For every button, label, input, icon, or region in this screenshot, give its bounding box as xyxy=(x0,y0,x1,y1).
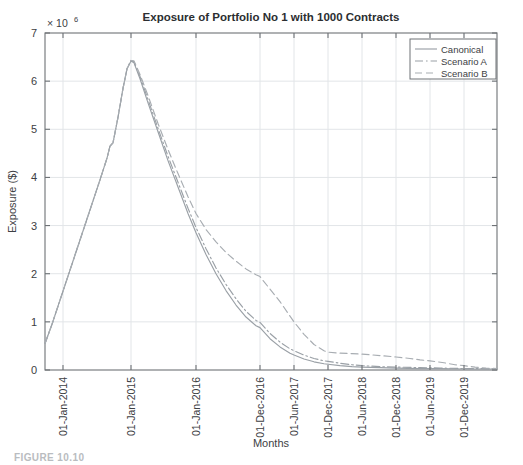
x-tick-label: 01-Dec-2016 xyxy=(254,377,266,438)
x-axis-label: Months xyxy=(253,437,290,449)
y-tick-label: 3 xyxy=(31,220,37,232)
chart-title: Exposure of Portfolio No 1 with 1000 Con… xyxy=(143,11,400,23)
legend-label: Scenario B xyxy=(441,68,487,79)
axes-box xyxy=(45,33,497,370)
figure-caption: FIGURE 10.10 xyxy=(14,452,254,464)
x-tick-label: 01-Dec-2019 xyxy=(458,377,470,438)
chart-legend: CanonicalScenario AScenario B xyxy=(410,39,496,79)
y-multiplier-base: × 10 xyxy=(47,17,68,29)
x-tick-label: 01-Dec-2017 xyxy=(322,377,334,438)
y-multiplier-exponent: 6 xyxy=(74,15,78,24)
x-tick-label: 01-Jan-2016 xyxy=(190,377,202,436)
legend-label: Canonical xyxy=(441,44,483,55)
y-tick-label: 2 xyxy=(31,268,37,280)
x-axis: 01-Jan-201401-Jan-201501-Jan-201601-Dec-… xyxy=(57,33,470,438)
y-axis-label: Exposure ($) xyxy=(6,170,18,233)
y-tick-label: 4 xyxy=(31,171,37,183)
y-tick-label: 5 xyxy=(31,123,37,135)
series-group xyxy=(45,60,497,369)
x-tick-label: 01-Jun-2019 xyxy=(424,377,436,436)
exposure-line-chart: 0123456701-Jan-201401-Jan-201501-Jan-201… xyxy=(0,0,523,465)
y-tick-label: 7 xyxy=(31,27,37,39)
series-line-canonical xyxy=(45,61,497,369)
y-tick-label: 0 xyxy=(31,364,37,376)
figure-container: 0123456701-Jan-201401-Jan-201501-Jan-201… xyxy=(0,0,523,465)
x-tick-label: 01-Jan-2014 xyxy=(57,377,69,436)
x-tick-label: 01-Jun-2017 xyxy=(288,377,300,436)
series-line-scenario-a xyxy=(45,60,497,369)
grid-lines xyxy=(45,33,497,370)
y-axis-multiplier: × 106 xyxy=(47,15,78,29)
y-tick-label: 1 xyxy=(31,316,37,328)
x-tick-label: 01-Dec-2018 xyxy=(390,377,402,438)
legend-label: Scenario A xyxy=(441,56,488,67)
plot-frame xyxy=(45,33,497,370)
x-tick-label: 01-Jun-2018 xyxy=(356,377,368,436)
y-tick-label: 6 xyxy=(31,75,37,87)
x-tick-label: 01-Jan-2015 xyxy=(125,377,137,436)
